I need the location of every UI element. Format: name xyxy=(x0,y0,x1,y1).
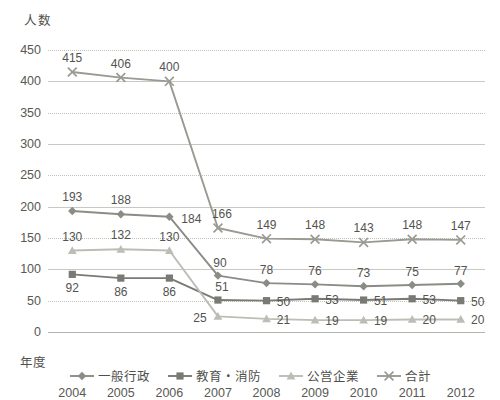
square-marker xyxy=(117,275,124,282)
diamond-marker xyxy=(311,280,319,288)
square-marker xyxy=(457,297,464,304)
x-axis-tick-label: 2012 xyxy=(447,386,475,400)
y-axis-tick-label: 100 xyxy=(20,262,41,276)
y-axis-tick-label: 350 xyxy=(20,106,41,120)
square-marker xyxy=(166,275,173,282)
square-marker xyxy=(214,296,221,303)
series-教育・消防 xyxy=(69,271,465,305)
legend-item-公営企業[interactable]: 公営企業 xyxy=(278,366,359,385)
square-marker xyxy=(311,295,318,302)
gridline xyxy=(48,332,485,333)
series-layer xyxy=(48,50,485,332)
x-axis-tick-label: 2008 xyxy=(253,386,281,400)
x-axis-tick-label: 2011 xyxy=(399,386,426,400)
y-axis-tick-label: 250 xyxy=(20,168,41,182)
y-axis-tick-label: 400 xyxy=(20,74,41,88)
x-cross-marker xyxy=(376,370,402,382)
square-marker xyxy=(360,296,367,303)
x-axis-tick-label: 2006 xyxy=(155,386,183,400)
diamond-marker xyxy=(408,281,416,289)
square-marker xyxy=(409,295,416,302)
y-axis-tick-label: 200 xyxy=(20,200,41,214)
square-marker xyxy=(167,370,193,382)
plot-area: 050100150200250300350400450 193188184907… xyxy=(48,50,485,332)
legend-label: 一般行政 xyxy=(98,366,150,385)
square-marker xyxy=(69,271,76,278)
x-axis-tick-label: 2010 xyxy=(350,386,378,400)
square-marker xyxy=(176,372,183,379)
diamond-marker xyxy=(359,282,367,290)
legend-item-教育・消防[interactable]: 教育・消防 xyxy=(167,366,261,385)
legend-label: 公営企業 xyxy=(307,366,359,385)
legend-label: 合計 xyxy=(405,366,431,385)
y-axis-title: 人数 xyxy=(24,10,51,29)
y-axis-tick-label: 300 xyxy=(20,137,41,151)
legend-label: 教育・消防 xyxy=(196,366,261,385)
y-axis-tick-label: 0 xyxy=(34,325,41,339)
legend-item-合計[interactable]: 合計 xyxy=(376,366,431,385)
diamond-marker xyxy=(117,210,125,218)
y-axis-tick-label: 150 xyxy=(20,231,41,245)
series-line xyxy=(72,274,460,300)
series-合計 xyxy=(68,68,465,247)
diamond-marker xyxy=(68,207,76,215)
diamond-marker xyxy=(457,280,465,288)
square-marker xyxy=(263,297,270,304)
diamond-marker xyxy=(69,370,95,382)
legend-item-一般行政[interactable]: 一般行政 xyxy=(69,366,150,385)
chart-legend: 一般行政教育・消防公営企業合計 xyxy=(0,366,500,385)
triangle-marker xyxy=(278,370,304,382)
y-axis-tick-label: 450 xyxy=(20,43,41,57)
x-axis-tick-label: 2004 xyxy=(58,386,86,400)
x-axis-tick-label: 2007 xyxy=(204,386,232,400)
series-line xyxy=(72,72,460,242)
x-axis-tick-label: 2009 xyxy=(301,386,329,400)
diamond-marker xyxy=(262,279,270,287)
diamond-marker xyxy=(78,371,86,379)
y-axis-tick-label: 50 xyxy=(27,294,41,308)
x-axis-tick-label: 2005 xyxy=(107,386,135,400)
